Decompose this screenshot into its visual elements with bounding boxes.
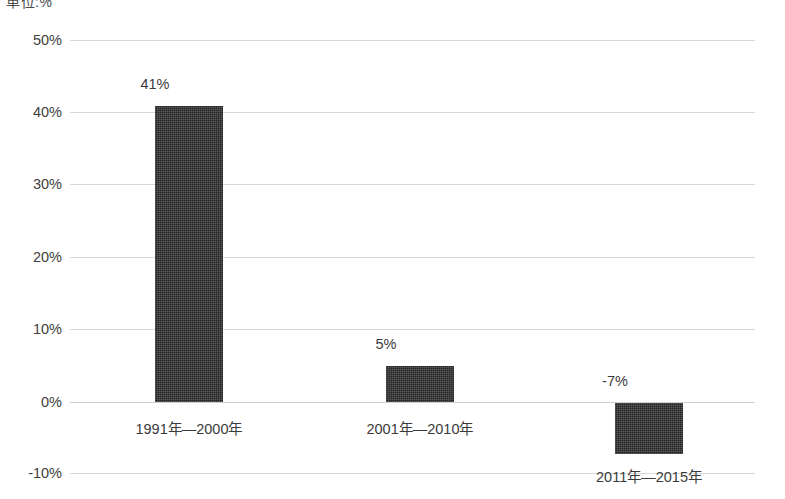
- bar-value-label-1: 41%: [95, 76, 215, 92]
- category-label-2: 2001年—2010年: [320, 417, 520, 438]
- y-axis-tick-40: 40%: [2, 104, 62, 120]
- category-label-3: 2011年—2015年: [549, 465, 749, 486]
- y-axis-tick-30: 30%: [2, 176, 62, 192]
- category-label-1: 1991年—2000年: [89, 417, 289, 438]
- gridline-50: [70, 40, 755, 41]
- unit-caption: 单位:%: [6, 0, 52, 11]
- bar-value-label-2: 5%: [326, 336, 446, 352]
- y-axis-tick-50: 50%: [2, 32, 62, 48]
- bar-1991-2000[interactable]: [155, 106, 223, 402]
- y-axis-tick-neg10: -10%: [2, 465, 62, 481]
- bar-2011-2015[interactable]: [615, 403, 683, 454]
- bar-2001-2010[interactable]: [386, 366, 454, 402]
- plot-area: 41% 1991年—2000年 5% 2001年—2010年 -7% 2011年…: [70, 40, 755, 473]
- y-axis-tick-10: 10%: [2, 321, 62, 337]
- y-axis-tick-20: 20%: [2, 249, 62, 265]
- y-axis-tick-0: 0%: [2, 394, 62, 410]
- bar-value-label-3: -7%: [555, 373, 675, 389]
- bar-chart: 单位:% 50% 40% 30% 20% 10% 0% -10% 41% 199…: [0, 0, 785, 499]
